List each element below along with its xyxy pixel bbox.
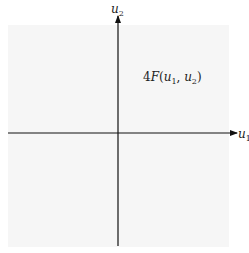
x-axis-label: u1 [238, 127, 249, 143]
y-axis-label: u2 [111, 2, 124, 18]
diagram-canvas: u1 u2 4F(u1, u2) [0, 0, 249, 253]
